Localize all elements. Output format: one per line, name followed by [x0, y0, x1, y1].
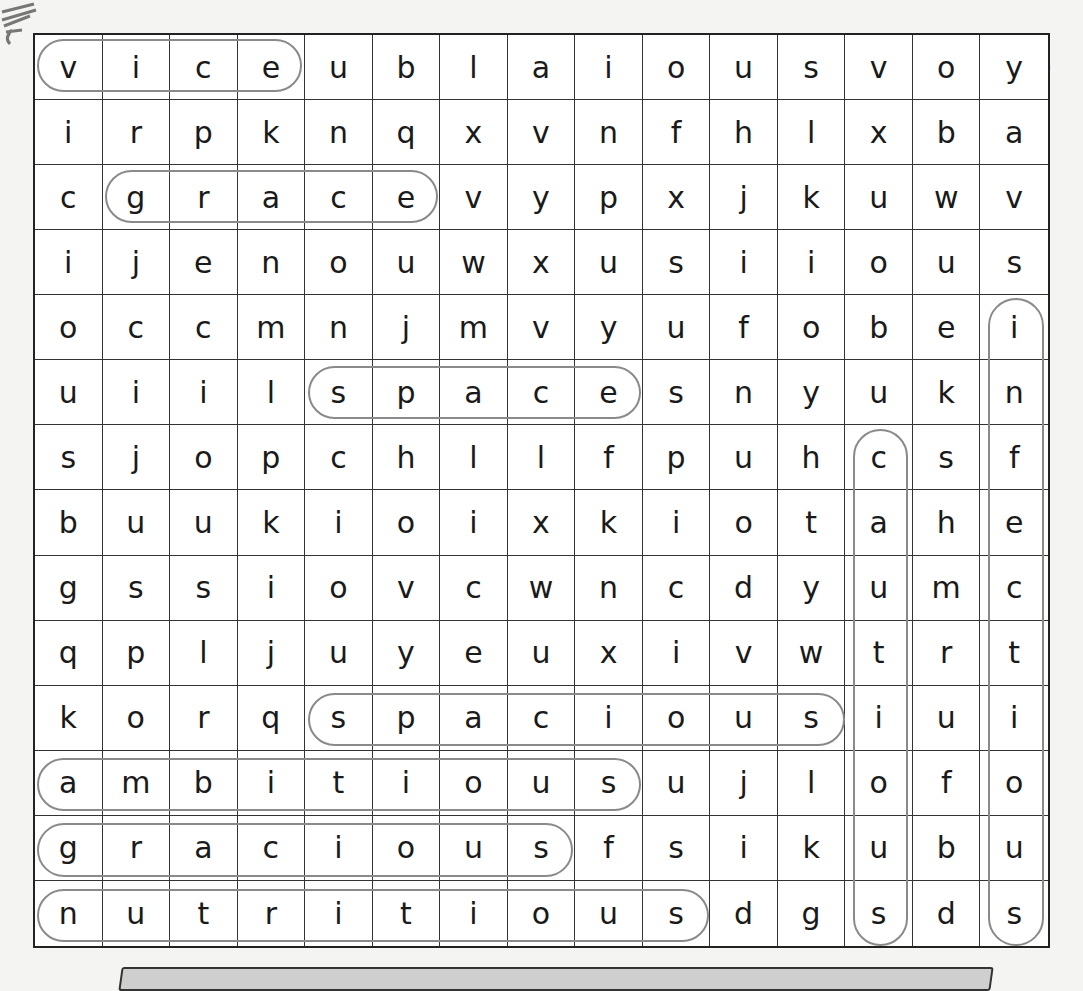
grid-cell[interactable]: i	[103, 35, 171, 100]
grid-cell[interactable]: l	[508, 425, 576, 490]
grid-cell[interactable]: b	[35, 490, 103, 555]
grid-cell[interactable]: o	[305, 230, 373, 295]
grid-cell[interactable]: c	[440, 556, 508, 621]
grid-cell[interactable]: e	[980, 490, 1048, 555]
grid-cell[interactable]: x	[575, 621, 643, 686]
grid-cell[interactable]: p	[238, 425, 306, 490]
grid-cell[interactable]: i	[170, 360, 238, 425]
grid-cell[interactable]: f	[643, 100, 711, 165]
grid-cell[interactable]: m	[103, 751, 171, 816]
grid-cell[interactable]: u	[980, 816, 1048, 881]
grid-cell[interactable]: v	[508, 100, 576, 165]
grid-cell[interactable]: y	[778, 556, 846, 621]
grid-cell[interactable]: s	[170, 556, 238, 621]
grid-cell[interactable]: u	[305, 35, 373, 100]
grid-cell[interactable]: o	[305, 556, 373, 621]
grid-cell[interactable]: l	[238, 360, 306, 425]
grid-cell[interactable]: u	[508, 751, 576, 816]
grid-cell[interactable]: h	[913, 490, 981, 555]
grid-cell[interactable]: m	[238, 295, 306, 360]
grid-cell[interactable]: s	[643, 230, 711, 295]
grid-cell[interactable]: o	[778, 295, 846, 360]
grid-cell[interactable]: o	[845, 230, 913, 295]
grid-cell[interactable]: a	[980, 100, 1048, 165]
grid-cell[interactable]: r	[103, 100, 171, 165]
grid-cell[interactable]: i	[440, 881, 508, 946]
grid-cell[interactable]: d	[913, 881, 981, 946]
grid-cell[interactable]: t	[778, 490, 846, 555]
grid-cell[interactable]: c	[305, 425, 373, 490]
grid-cell[interactable]: i	[35, 230, 103, 295]
grid-cell[interactable]: y	[508, 165, 576, 230]
grid-cell[interactable]: s	[643, 360, 711, 425]
grid-cell[interactable]: t	[373, 881, 441, 946]
grid-cell[interactable]: o	[980, 751, 1048, 816]
grid-cell[interactable]: s	[913, 425, 981, 490]
grid-cell[interactable]: b	[373, 35, 441, 100]
grid-cell[interactable]: s	[643, 881, 711, 946]
grid-cell[interactable]: u	[710, 35, 778, 100]
grid-cell[interactable]: b	[170, 751, 238, 816]
grid-cell[interactable]: u	[643, 751, 711, 816]
grid-cell[interactable]: p	[643, 425, 711, 490]
grid-cell[interactable]: l	[440, 425, 508, 490]
grid-cell[interactable]: o	[710, 490, 778, 555]
grid-cell[interactable]: r	[913, 621, 981, 686]
grid-cell[interactable]: r	[170, 686, 238, 751]
grid-cell[interactable]: k	[913, 360, 981, 425]
grid-cell[interactable]: p	[575, 165, 643, 230]
grid-cell[interactable]: o	[643, 686, 711, 751]
grid-cell[interactable]: u	[845, 360, 913, 425]
grid-cell[interactable]: k	[778, 816, 846, 881]
grid-cell[interactable]: v	[845, 35, 913, 100]
grid-cell[interactable]: i	[373, 751, 441, 816]
grid-cell[interactable]: i	[575, 686, 643, 751]
grid-cell[interactable]: u	[103, 490, 171, 555]
grid-cell[interactable]: j	[103, 230, 171, 295]
grid-cell[interactable]: i	[643, 621, 711, 686]
grid-cell[interactable]: n	[305, 295, 373, 360]
grid-cell[interactable]: g	[35, 816, 103, 881]
grid-cell[interactable]: s	[305, 360, 373, 425]
grid-cell[interactable]: i	[980, 295, 1048, 360]
grid-cell[interactable]: e	[913, 295, 981, 360]
grid-cell[interactable]: y	[373, 621, 441, 686]
grid-cell[interactable]: a	[238, 165, 306, 230]
grid-cell[interactable]: n	[710, 360, 778, 425]
grid-cell[interactable]: s	[778, 35, 846, 100]
grid-cell[interactable]: t	[980, 621, 1048, 686]
grid-cell[interactable]: i	[305, 881, 373, 946]
grid-cell[interactable]: d	[710, 881, 778, 946]
grid-cell[interactable]: i	[845, 686, 913, 751]
grid-cell[interactable]: u	[913, 686, 981, 751]
grid-cell[interactable]: u	[710, 686, 778, 751]
grid-cell[interactable]: x	[508, 230, 576, 295]
grid-cell[interactable]: i	[980, 686, 1048, 751]
grid-cell[interactable]: j	[710, 751, 778, 816]
grid-cell[interactable]: b	[913, 816, 981, 881]
grid-cell[interactable]: u	[643, 295, 711, 360]
grid-cell[interactable]: h	[778, 425, 846, 490]
grid-cell[interactable]: g	[35, 556, 103, 621]
grid-cell[interactable]: x	[845, 100, 913, 165]
grid-cell[interactable]: u	[845, 556, 913, 621]
grid-cell[interactable]: u	[305, 621, 373, 686]
grid-cell[interactable]: w	[508, 556, 576, 621]
grid-cell[interactable]: a	[170, 816, 238, 881]
grid-cell[interactable]: o	[35, 295, 103, 360]
grid-cell[interactable]: e	[238, 35, 306, 100]
grid-cell[interactable]: c	[170, 35, 238, 100]
grid-cell[interactable]: n	[238, 230, 306, 295]
grid-cell[interactable]: f	[913, 751, 981, 816]
grid-cell[interactable]: c	[643, 556, 711, 621]
grid-cell[interactable]: i	[305, 490, 373, 555]
grid-cell[interactable]: i	[575, 35, 643, 100]
grid-cell[interactable]: c	[103, 295, 171, 360]
grid-cell[interactable]: p	[103, 621, 171, 686]
grid-cell[interactable]: u	[440, 816, 508, 881]
grid-cell[interactable]: q	[373, 100, 441, 165]
grid-cell[interactable]: h	[710, 100, 778, 165]
grid-cell[interactable]: i	[710, 230, 778, 295]
grid-cell[interactable]: x	[508, 490, 576, 555]
grid-cell[interactable]: v	[440, 165, 508, 230]
